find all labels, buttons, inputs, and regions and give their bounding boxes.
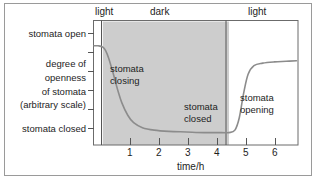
- annotation-stomata-closing-line-2: closing: [110, 75, 144, 87]
- annotation-stomata-closing: stomata closing: [110, 63, 144, 87]
- annotation-stomata-opening: stomata opening: [240, 92, 274, 116]
- phase-label-left-light: light: [95, 6, 113, 18]
- stomata-openness-chart-figure: light dark light stomata open degree of …: [0, 0, 317, 182]
- annotation-stomata-opening-line-2: opening: [240, 104, 274, 116]
- x-tick-label-2: 2: [156, 147, 162, 159]
- phase-label-dark: dark: [150, 6, 169, 18]
- annotation-stomata-closed-line-2: closed: [184, 113, 218, 125]
- y-axis-title-line-3: of stomata: [20, 85, 86, 99]
- annotation-stomata-closed: stomata closed: [184, 101, 218, 125]
- y-axis-title: degree of openness of stomata (arbitrary…: [20, 57, 86, 112]
- x-tick-label-3: 3: [185, 147, 191, 159]
- y-axis-title-line-1: degree of: [20, 57, 86, 71]
- annotation-stomata-closing-line-1: stomata: [110, 63, 144, 75]
- y-axis-title-line-4: (arbitrary scale): [20, 98, 86, 112]
- x-axis-title: time/h: [177, 161, 204, 173]
- x-tick-label-5: 5: [243, 147, 249, 159]
- y-axis-bottom-label: stomata closed: [22, 122, 86, 136]
- annotation-stomata-closed-line-1: stomata: [184, 101, 218, 113]
- y-axis-title-line-2: openness: [20, 71, 86, 85]
- x-tick-label-1: 1: [127, 147, 133, 159]
- y-axis-top-label: stomata open: [28, 27, 86, 41]
- phase-label-right-light: light: [248, 6, 266, 18]
- annotation-stomata-opening-line-1: stomata: [240, 92, 274, 104]
- x-tick-label-6: 6: [272, 147, 278, 159]
- x-tick-label-4: 4: [214, 147, 220, 159]
